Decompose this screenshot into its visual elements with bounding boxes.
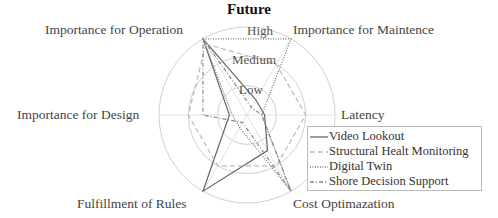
- axis-label-design: Importance for Design: [17, 107, 139, 123]
- axis-spoke: [247, 39, 291, 115]
- dashed-line-icon: [310, 151, 328, 154]
- ring-label-high: High: [247, 23, 273, 39]
- dashdot-line-icon: [310, 181, 328, 184]
- axis-label-cost: Cost Optimazation: [293, 196, 395, 212]
- ring-label-medium: Medium: [232, 52, 276, 68]
- dotted-line-icon: [310, 166, 328, 169]
- axis-label-maintenance: Importance for Maintence: [293, 22, 434, 38]
- chart-legend: Video Lookout Structural Healt Monitorin…: [307, 126, 482, 191]
- axis-label-operation: Importance for Operation: [45, 22, 183, 38]
- axis-spoke: [247, 115, 291, 191]
- axis-label-rules: Fulfillment of Rules: [77, 196, 187, 212]
- chart-title: Future: [0, 1, 498, 18]
- ring-label-low: Low: [239, 82, 263, 98]
- axis-label-latency: Latency: [341, 107, 384, 123]
- solid-line-icon: [310, 136, 328, 139]
